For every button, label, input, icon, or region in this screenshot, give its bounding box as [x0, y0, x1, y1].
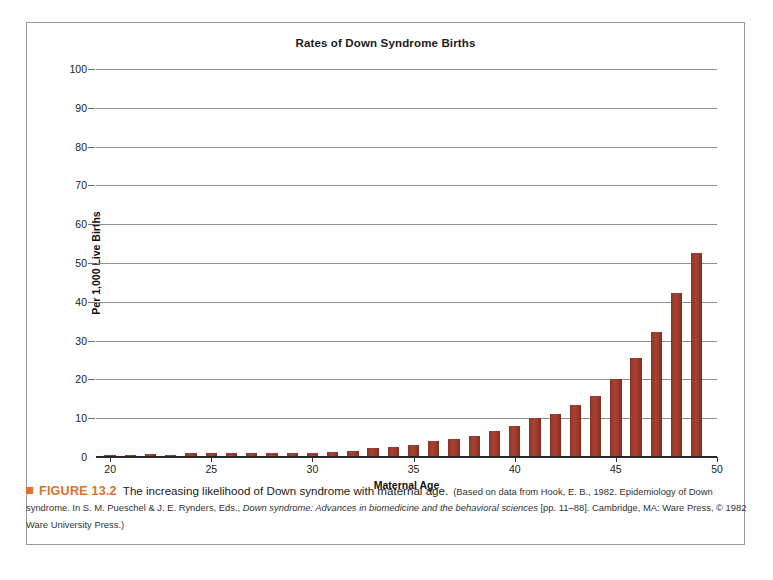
bar-age-43 [570, 405, 581, 457]
y-tick-mark-10 [88, 418, 95, 419]
caption-lead-text: The increasing likelihood of Down syndro… [123, 484, 448, 497]
bar-series [96, 69, 717, 457]
y-tick-label-90: 90 [75, 102, 87, 114]
bar-age-40 [509, 426, 520, 457]
x-tick-label-40: 40 [509, 463, 521, 475]
figure-number: FIGURE 13.2 [39, 484, 117, 498]
y-tick-mark-20 [88, 379, 95, 380]
y-tick-label-40: 40 [75, 296, 87, 308]
bar-age-48 [671, 293, 682, 457]
y-tick-label-10: 10 [75, 412, 87, 424]
bar-age-45 [610, 379, 621, 457]
y-tick-label-30: 30 [75, 335, 87, 347]
x-tick-label-20: 20 [104, 463, 116, 475]
x-tick-mark-30 [312, 457, 313, 462]
y-tick-label-80: 80 [75, 141, 87, 153]
caption-source-title: Down syndrome: Advances in biomedicine a… [243, 502, 538, 513]
chart-title: Rates of Down Syndrome Births [27, 37, 744, 49]
y-tick-label-100: 100 [69, 63, 87, 75]
bar-age-44 [590, 396, 601, 457]
y-tick-label-60: 60 [75, 218, 87, 230]
y-tick-mark-80 [88, 147, 95, 148]
x-tick-mark-45 [616, 457, 617, 462]
bar-age-38 [469, 436, 480, 457]
x-tick-mark-50 [717, 457, 718, 462]
x-tick-mark-40 [515, 457, 516, 462]
y-tick-mark-70 [88, 185, 95, 186]
chart-panel: Rates of Down Syndrome Births Per 1,000 … [26, 22, 745, 545]
y-tick-label-70: 70 [75, 179, 87, 191]
x-tick-label-50: 50 [711, 463, 723, 475]
gridline-0 [96, 457, 717, 458]
x-tick-mark-20 [110, 457, 111, 462]
x-tick-mark-25 [211, 457, 212, 462]
y-tick-mark-30 [88, 341, 95, 342]
bar-age-41 [529, 418, 540, 457]
plot-area: Per 1,000 Live Births 010203040506070809… [96, 69, 717, 457]
y-tick-mark-50 [88, 263, 95, 264]
x-tick-label-30: 30 [307, 463, 319, 475]
x-tick-mark-35 [414, 457, 415, 462]
y-tick-mark-100 [88, 69, 95, 70]
y-tick-mark-90 [88, 108, 95, 109]
bar-age-39 [489, 431, 500, 457]
x-tick-label-35: 35 [408, 463, 420, 475]
bar-age-46 [630, 358, 641, 457]
bar-age-42 [550, 414, 561, 457]
bar-age-37 [448, 439, 459, 457]
y-tick-label-20: 20 [75, 373, 87, 385]
x-tick-label-25: 25 [205, 463, 217, 475]
figure-root: Rates of Down Syndrome Births Per 1,000 … [0, 0, 773, 580]
x-axis-line [96, 456, 717, 458]
bar-age-47 [651, 332, 662, 457]
x-tick-label-45: 45 [610, 463, 622, 475]
orange-square-bullet-icon [26, 487, 33, 494]
y-tick-label-50: 50 [75, 257, 87, 269]
bar-age-49 [691, 253, 702, 457]
y-tick-mark-40 [88, 302, 95, 303]
figure-caption: FIGURE 13.2The increasing likelihood of … [26, 483, 748, 533]
y-tick-mark-60 [88, 224, 95, 225]
y-tick-label-0: 0 [81, 451, 87, 463]
